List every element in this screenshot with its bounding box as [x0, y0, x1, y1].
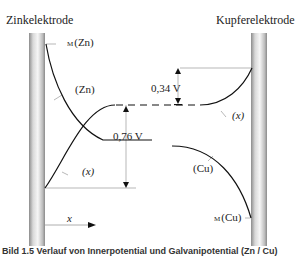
- curve-phi-x-left: [45, 105, 115, 188]
- potential-diagram: Zinkelektrode Kupferelektrode M(Zn) (Zn)…: [0, 0, 305, 256]
- voltage-zn-label: 0,76 V: [113, 131, 143, 142]
- phi-cu-label: (Cu): [193, 163, 213, 174]
- zinc-electrode-label: Zinkelektrode: [6, 14, 73, 26]
- zinc-electrode: [29, 33, 45, 246]
- diagram-canvas: [0, 0, 305, 256]
- phi-m-cu-label: M(Cu): [214, 212, 241, 223]
- copper-electrode-label: Kupferelektrode: [216, 14, 295, 26]
- figure-caption: Bild 1.5 Verlauf von Innerpotential und …: [2, 246, 278, 256]
- copper-electrode: [251, 33, 267, 246]
- voltage-cu-label: 0,34 V: [151, 83, 181, 94]
- curve-phi-x-right: [200, 68, 252, 105]
- phi-x-left-label: (x): [82, 166, 94, 177]
- potential-curves: [45, 44, 252, 218]
- phi-m-zn-label: M(Zn): [67, 37, 94, 48]
- curve-phi-m-zn: [46, 44, 152, 140]
- guide-lines: [45, 44, 252, 218]
- phi-x-right-label: (x): [232, 110, 244, 121]
- curve-phi-cu: [172, 146, 251, 218]
- x-axis-label: x: [67, 213, 72, 224]
- phi-zn-label: (Zn): [75, 84, 95, 95]
